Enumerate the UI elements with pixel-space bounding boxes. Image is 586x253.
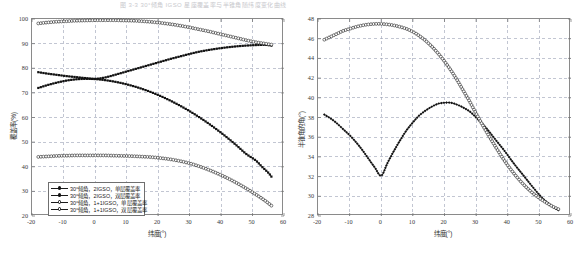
- y-tick-label: 80: [6, 64, 28, 71]
- chart-panel-half-cone-angle: 48 46 44 42 40 38 36 34 32 30 28 -20 -10…: [293, 0, 586, 253]
- y-tick-label: 42: [293, 74, 314, 81]
- x-tick-label: 30: [472, 218, 478, 225]
- x-tick-label: 20: [154, 218, 160, 225]
- y-tick-label: 100: [6, 15, 28, 22]
- y-axis-title: 半锥角的角(°): [297, 111, 306, 148]
- x-tick-label: 0: [92, 218, 95, 225]
- y-tick-label: 30: [6, 187, 28, 194]
- y-tick-label: 20: [6, 212, 28, 219]
- legend-marker-hollow-circle: [51, 206, 68, 213]
- y-tick-label: 28: [293, 212, 314, 219]
- y-axis-title: 覆盖率(%): [9, 112, 18, 140]
- axis-ticks-left: 100 90 80 70 60 50 40 30 20 -20 -10 0 10…: [0, 0, 293, 253]
- y-tick-label: 40: [293, 93, 314, 100]
- figure-root: 图 3-3 30°倾角 IGSO 星座覆盖率与半锥角随纬度变化曲线 100 90…: [0, 0, 586, 253]
- x-tick-label: 40: [217, 218, 223, 225]
- x-tick-label: -10: [344, 218, 352, 225]
- x-tick-label: 30: [185, 218, 191, 225]
- y-tick-label: 70: [6, 88, 28, 95]
- legend-item[interactable]: 30°倾角，1+1IGSO，双层覆盖率: [51, 206, 141, 213]
- x-tick-label: 40: [504, 218, 510, 225]
- x-axis-title: 纬度(°): [117, 229, 197, 238]
- x-tick-label: -20: [313, 218, 321, 225]
- legend-marker-hollow-circle: [51, 199, 68, 206]
- y-tick-label: 32: [293, 172, 314, 179]
- x-tick-label: 20: [440, 218, 446, 225]
- y-tick-label: 30: [293, 192, 314, 199]
- y-tick-label: 46: [293, 34, 314, 41]
- legend-marker-filled-square: [51, 192, 68, 199]
- y-tick-label: 44: [293, 54, 314, 61]
- y-tick-label: 90: [6, 39, 28, 46]
- legend-label: 30°倾角，1+1IGSO，双层覆盖率: [70, 206, 147, 214]
- y-tick-label: 34: [293, 152, 314, 159]
- legend-marker-filled-square: [51, 185, 68, 192]
- x-tick-label: 60: [280, 218, 286, 225]
- y-tick-label: 48: [293, 15, 314, 22]
- x-tick-label: 10: [409, 218, 415, 225]
- x-axis-title: 纬度(°): [403, 229, 483, 238]
- x-tick-label: 10: [122, 218, 128, 225]
- x-tick-label: 60: [567, 218, 573, 225]
- y-tick-label: 40: [6, 162, 28, 169]
- x-tick-label: -20: [27, 218, 35, 225]
- x-tick-label: -10: [58, 218, 66, 225]
- x-tick-label: 50: [248, 218, 254, 225]
- x-tick-label: 0: [379, 218, 382, 225]
- chart-panel-coverage: 100 90 80 70 60 50 40 30 20 -20 -10 0 10…: [0, 0, 293, 253]
- axis-ticks-right: 48 46 44 42 40 38 36 34 32 30 28 -20 -10…: [293, 0, 586, 253]
- legend-coverage[interactable]: 30°倾角，2IGSO，单层覆盖率 30°倾角，2IGSO，双层覆盖率 30°倾…: [48, 182, 145, 216]
- x-tick-label: 50: [535, 218, 541, 225]
